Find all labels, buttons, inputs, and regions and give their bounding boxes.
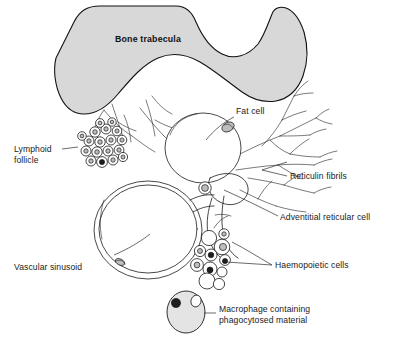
label-haemopoietic-cells: Haemopoietic cells xyxy=(275,260,349,270)
bone-marrow-diagram: Bone trabecula xyxy=(0,0,409,345)
macrophage-shape xyxy=(167,291,205,333)
bone-trabecula-shape xyxy=(55,6,307,114)
label-adventitial-reticular-cell: Adventitial reticular cell xyxy=(280,212,370,222)
fat-cell-shape xyxy=(165,113,241,183)
leader-haemopoietic-1 xyxy=(226,262,272,265)
label-lymphoid-follicle-line2: follicle xyxy=(14,155,39,165)
leader-haemopoietic-2 xyxy=(232,242,272,265)
label-lymphoid-follicle-line1: Lymphoid xyxy=(14,144,52,154)
label-macrophage-line1: Macrophage containing xyxy=(219,304,310,314)
label-fat-cell: Fat cell xyxy=(236,106,264,116)
leader-lymphoid-follicle xyxy=(62,147,78,149)
leader-reticulin-fibrils xyxy=(262,162,287,176)
label-reticulin-fibrils: Reticulin fibrils xyxy=(290,171,347,181)
leader-adventitial-reticular-cell xyxy=(224,190,278,216)
label-bone-trabecula: Bone trabecula xyxy=(115,34,181,44)
label-vascular-sinusoid: Vascular sinusoid xyxy=(14,262,82,272)
label-macrophage-line2: phagocytosed material xyxy=(219,315,307,325)
lymphoid-follicle-cluster xyxy=(78,118,128,168)
